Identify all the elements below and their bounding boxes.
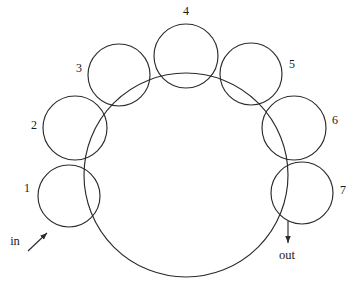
lobe-label-5: 5 — [289, 58, 295, 70]
in-label: in — [10, 235, 20, 248]
main-circle-path — [84, 73, 288, 277]
lobe-label-4: 4 — [183, 5, 189, 17]
in-arrow — [28, 233, 47, 251]
flow-arrows-group — [28, 221, 288, 251]
ring-of-circles-diagram — [0, 0, 354, 291]
lobe-circle-6 — [262, 96, 326, 160]
lobe-circle-1 — [38, 165, 100, 227]
lobe-label-1: 1 — [24, 182, 30, 194]
lobe-circle-4 — [154, 24, 218, 88]
lobe-circle-2 — [43, 96, 107, 160]
lobe-label-7: 7 — [340, 184, 346, 196]
main-circle — [84, 73, 288, 277]
lobe-circle-3 — [88, 44, 150, 106]
lobe-label-2: 2 — [31, 119, 37, 131]
diagram-canvas: 1234567inout — [0, 0, 354, 291]
lobe-circles-group — [38, 24, 333, 227]
lobe-circle-7 — [271, 162, 333, 224]
lobe-label-3: 3 — [76, 62, 82, 74]
out-label: out — [279, 249, 295, 262]
lobe-label-6: 6 — [332, 114, 338, 126]
